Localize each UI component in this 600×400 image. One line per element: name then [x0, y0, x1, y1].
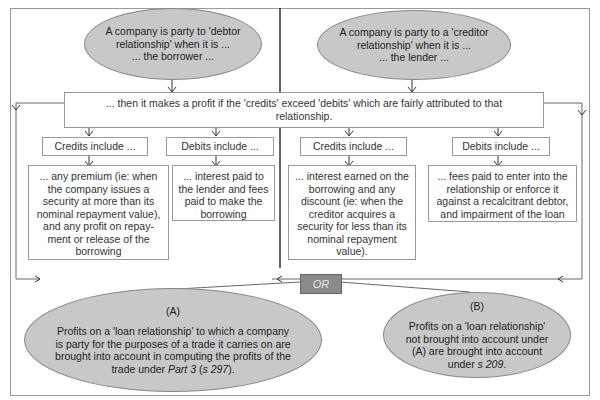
debtor-oval-line1: A company is party to 'debtor — [105, 25, 240, 38]
profit-rule-line2: relationship. — [65, 110, 543, 123]
creditor-oval-line3: ... the lender ... — [339, 51, 488, 64]
option-a-label: (A) — [55, 305, 291, 318]
option-a-oval: (A) Profits on a 'loan relationship' to … — [24, 288, 322, 392]
debtor-debits-body: ... interest paid to the lender and fees… — [172, 165, 275, 221]
creditor-relationship-oval: A company is party to a 'creditor relati… — [317, 10, 511, 80]
option-b-label: (B) — [402, 300, 552, 313]
profit-rule-box: ... then it makes a profit if the 'credi… — [64, 92, 544, 128]
debtor-debits-header: Debits include ... — [166, 137, 274, 156]
profit-rule-line1: ... then it makes a profit if the 'credi… — [65, 97, 543, 110]
creditor-debits-body: ... fees paid to enter into the relation… — [428, 165, 577, 222]
creditor-credits-body: ... interest earned on the borrowing and… — [288, 165, 416, 260]
debtor-credits-header: Credits include ... — [42, 137, 148, 156]
creditor-debits-header: Debits include ... — [452, 137, 550, 156]
option-b-text: Profits on a 'loan relationship' not bro… — [402, 320, 552, 370]
debtor-credits-body: ... any premium (ie: when the company is… — [28, 165, 169, 260]
debtor-oval-line3: ... the borrower ... — [105, 50, 240, 63]
creditor-credits-header: Credits include ... — [300, 137, 407, 156]
debtor-relationship-oval: A company is party to 'debtor relationsh… — [84, 8, 262, 80]
debtor-oval-line2: relationship' when it is ... — [105, 38, 240, 51]
option-b-oval: (B) Profits on a 'loan relationship' not… — [383, 292, 571, 378]
or-connector: OR — [300, 274, 342, 294]
option-a-text: Profits on a 'loan relationship' to whic… — [55, 325, 291, 375]
creditor-oval-line2: relationship' when it is ... — [339, 39, 488, 52]
creditor-oval-line1: A company is party to a 'creditor — [339, 26, 488, 39]
